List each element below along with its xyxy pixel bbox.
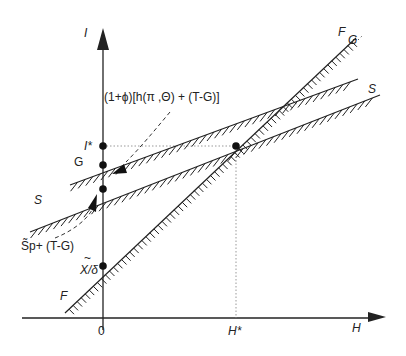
- lower-dashed-arrow: [55, 194, 97, 238]
- upper-dashed-arrow: [112, 112, 170, 174]
- f-top-label: F: [338, 25, 346, 39]
- x-axis: [22, 312, 386, 322]
- s-right-label: S: [368, 82, 376, 96]
- x-delta-point: [99, 262, 107, 270]
- y-axis: [97, 28, 109, 330]
- g-intercept-point: [99, 161, 107, 169]
- s-left-label: S: [34, 193, 42, 207]
- i-star-point: [99, 142, 107, 150]
- g-right-label: G: [348, 33, 357, 47]
- i-star-label: I*: [84, 139, 92, 153]
- origin-label: 0: [98, 324, 105, 338]
- diagram-canvas: I H 0 H* I* G S G S F F (1+ϕ)[h(π ,Θ) + …: [0, 0, 406, 356]
- equilibrium-point: [232, 142, 240, 150]
- s-intercept-point: [99, 185, 107, 193]
- x-axis-label: H: [352, 321, 361, 335]
- y-axis-label: I: [84, 26, 88, 40]
- lower-expression: S̃p+ (T-G): [21, 238, 74, 253]
- x-delta-label: X/δ: [79, 263, 98, 277]
- upper-expression: (1+ϕ)[h(π ,Θ) + (T-G)]: [104, 90, 220, 104]
- g-left-label: G: [74, 155, 83, 169]
- f-bottom-label: F: [60, 289, 68, 303]
- h-star-label: H*: [228, 324, 242, 338]
